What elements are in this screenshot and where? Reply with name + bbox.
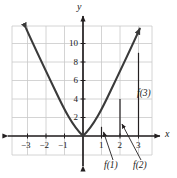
x-tick-2: 2 <box>118 141 123 150</box>
annotation-f3: f(3) <box>137 89 151 99</box>
x-tick-1: 1 <box>99 141 104 150</box>
annotation-f1: f(1) <box>104 161 118 171</box>
y-axis-label: y <box>77 2 81 12</box>
x-tick-neg2: −2 <box>40 141 50 150</box>
graph-figure: 10 8 6 4 2 −3 −2 −1 1 2 3 y x f(1) f(2) … <box>0 0 177 178</box>
x-tick-neg3: −3 <box>21 141 31 150</box>
y-tick-10: 10 <box>64 39 78 48</box>
x-axis-label: x <box>165 129 169 139</box>
x-tick-3: 3 <box>136 141 141 150</box>
y-tick-4: 4 <box>69 95 78 104</box>
y-tick-2: 2 <box>69 113 78 122</box>
y-tick-8: 8 <box>69 58 78 67</box>
annotation-f2: f(2) <box>133 161 147 171</box>
y-tick-6: 6 <box>69 76 78 85</box>
x-tick-neg1: −1 <box>58 141 68 150</box>
